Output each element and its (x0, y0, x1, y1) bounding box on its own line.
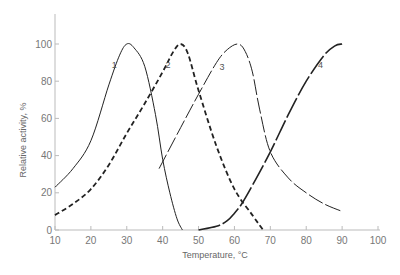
y-tick-label: 100 (35, 39, 52, 50)
curve-label-2: 2 (166, 60, 171, 70)
x-tick-label: 40 (157, 235, 169, 246)
y-tick-label: 80 (41, 76, 53, 87)
x-tick-label: 50 (193, 235, 205, 246)
y-tick-label: 20 (41, 187, 53, 198)
x-ticks: 102030405060708090100 (49, 226, 386, 246)
y-tick-label: 40 (41, 150, 53, 161)
curve-label-3: 3 (219, 62, 224, 72)
curve-label-4: 4 (318, 60, 323, 70)
curve-label-1: 1 (112, 60, 117, 70)
x-axis-label: Temperature, °C (182, 250, 248, 260)
x-tick-label: 90 (337, 235, 349, 246)
x-tick-label: 100 (370, 235, 387, 246)
x-tick-label: 20 (85, 235, 97, 246)
x-tick-label: 70 (265, 235, 277, 246)
curve-1 (55, 44, 182, 230)
y-tick-label: 0 (46, 225, 52, 236)
x-tick-label: 60 (229, 235, 241, 246)
x-tick-label: 30 (121, 235, 133, 246)
x-tick-label: 80 (301, 235, 313, 246)
y-tick-label: 60 (41, 113, 53, 124)
activity-temperature-chart: 020406080100 102030405060708090100 1234 … (0, 0, 400, 275)
x-tick-label: 10 (49, 235, 61, 246)
curves (55, 44, 342, 230)
y-axis-label: Relative activity, % (18, 103, 28, 178)
